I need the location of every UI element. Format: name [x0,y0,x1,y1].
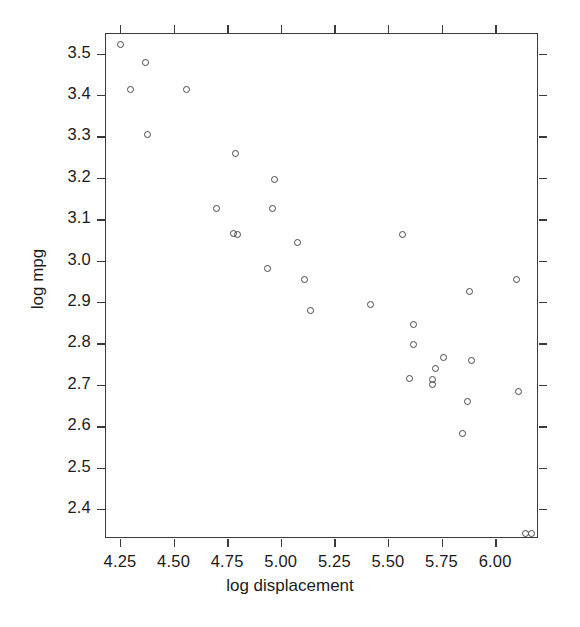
y-tick-right [539,219,547,220]
x-tick-top [281,25,282,33]
y-tick-right [539,385,547,386]
scatter-plot-figure: 4.254.504.755.005.255.505.756.00 2.42.52… [0,0,580,627]
data-point [144,131,151,138]
data-point [464,398,471,405]
data-point [440,354,447,361]
y-tick-right [539,426,547,427]
x-tick-top [495,25,496,33]
data-point [307,307,314,314]
y-tick-label: 3.3 [21,125,91,144]
x-tick-top [442,25,443,33]
y-tick-label: 2.4 [21,498,91,517]
y-tick-right [539,261,547,262]
data-point [410,321,417,328]
y-tick-right [539,468,547,469]
y-tick-right [539,343,547,344]
data-point [513,276,520,283]
y-tick-right [539,509,547,510]
y-tick-label: 3.4 [21,84,91,103]
data-point [410,341,417,348]
data-point [117,41,124,48]
data-point [468,357,475,364]
x-tick-bottom [281,539,282,547]
y-tick-left [97,509,105,510]
y-tick-left [97,302,105,303]
x-tick-top [120,25,121,33]
y-axis-title: log mpg [28,179,48,379]
x-tick-top [174,25,175,33]
data-point [399,231,406,238]
data-point [264,265,271,272]
x-axis-title: log displacement [0,576,580,596]
y-tick-right [539,54,547,55]
y-tick-right [539,95,547,96]
data-point [406,375,413,382]
data-point [271,176,278,183]
x-tick-top [388,25,389,33]
y-tick-right [539,136,547,137]
data-point [142,59,149,66]
data-point [213,205,220,212]
y-tick-right [539,302,547,303]
x-tick-bottom [334,539,335,547]
data-point [294,239,301,246]
y-tick-left [97,136,105,137]
data-point [528,530,535,537]
y-tick-left [97,219,105,220]
x-tick-bottom [495,539,496,547]
data-point [183,86,190,93]
x-tick-bottom [120,539,121,547]
x-tick-top [227,25,228,33]
y-tick-left [97,261,105,262]
y-tick-left [97,426,105,427]
x-tick-label: 6.00 [460,552,530,571]
y-tick-label: 3.5 [21,43,91,62]
data-point [232,150,239,157]
data-points-layer [105,33,538,538]
y-tick-label: 2.5 [21,457,91,476]
data-point [466,288,473,295]
x-tick-bottom [227,539,228,547]
data-point [301,276,308,283]
data-point [459,430,466,437]
x-tick-bottom [174,539,175,547]
y-tick-left [97,54,105,55]
y-tick-left [97,468,105,469]
y-tick-left [97,178,105,179]
y-tick-left [97,385,105,386]
x-tick-bottom [442,539,443,547]
x-tick-top [334,25,335,33]
y-tick-left [97,343,105,344]
data-point [269,205,276,212]
x-tick-bottom [388,539,389,547]
y-tick-label: 2.6 [21,415,91,434]
y-tick-left [97,95,105,96]
data-point [515,388,522,395]
data-point [127,86,134,93]
y-tick-right [539,178,547,179]
data-point [432,365,439,372]
data-point [367,301,374,308]
data-point [234,231,241,238]
data-point [429,381,436,388]
